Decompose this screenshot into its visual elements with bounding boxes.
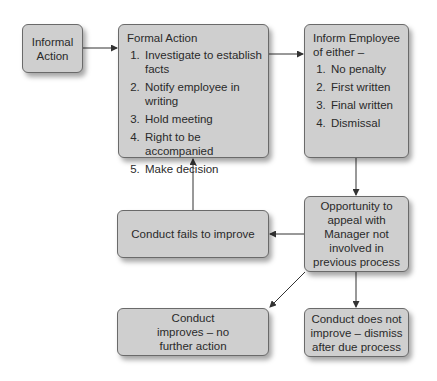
node-label: Conduct fails to improve <box>131 227 254 241</box>
node-title: Inform Employee of either – <box>313 31 402 59</box>
node-label: Conduct improves – no further action <box>148 311 238 353</box>
list-item: Dismissal <box>329 116 402 130</box>
node-conduct-dismiss: Conduct does not improve – dismiss after… <box>304 308 409 357</box>
list-item: Right to be accompanied <box>143 130 262 158</box>
list-item: Make decision <box>143 162 262 176</box>
node-conduct-fails: Conduct fails to improve <box>117 210 269 258</box>
node-conduct-improves: Conduct improves – no further action <box>117 308 269 356</box>
node-label: Conduct does not improve – dismiss after… <box>307 312 406 354</box>
list-item: Investigate to establish facts <box>143 48 262 76</box>
node-appeal-opportunity: Opportunity to appeal with Manager not i… <box>304 196 409 272</box>
node-informal-action: Informal Action <box>22 24 83 73</box>
list-item: No penalty <box>329 62 402 76</box>
node-label: Opportunity to appeal with Manager not i… <box>308 199 405 269</box>
node-label: Informal Action <box>25 35 80 63</box>
list-item: First written <box>329 80 402 94</box>
node-title: Formal Action <box>127 31 262 45</box>
node-formal-action: Formal Action Investigate to establish f… <box>118 24 269 158</box>
node-inform-employee: Inform Employee of either – No penalty F… <box>304 24 409 158</box>
list-item: Hold meeting <box>143 112 262 126</box>
arrow-appeal-to-improves <box>270 272 305 307</box>
formal-steps-list: Investigate to establish facts Notify em… <box>127 48 262 176</box>
outcomes-list: No penalty First written Final written D… <box>313 62 402 130</box>
list-item: Final written <box>329 98 402 112</box>
list-item: Notify employee in writing <box>143 80 262 108</box>
